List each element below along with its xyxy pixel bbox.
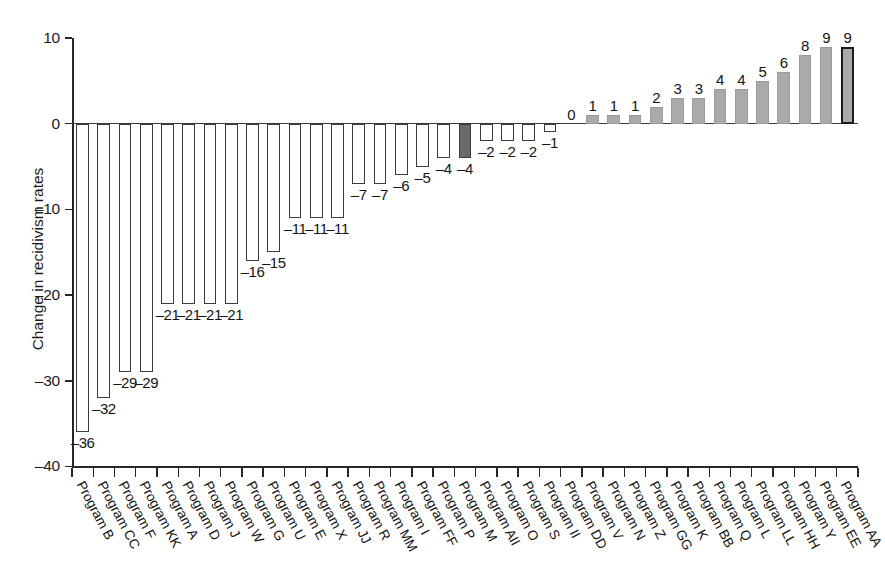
x-tick-mark [794, 468, 795, 477]
y-tick-label: 0 [14, 116, 60, 132]
y-tick-label: 10 [14, 30, 60, 46]
x-tick-mark [772, 468, 773, 477]
y-tick-mark [65, 209, 72, 211]
x-tick-mark [857, 468, 858, 477]
bar [522, 124, 535, 141]
x-axis-line [72, 466, 858, 468]
x-tick-mark [581, 468, 582, 477]
bar [395, 124, 408, 175]
bar [352, 124, 365, 184]
x-tick-mark [645, 468, 646, 477]
x-tick-mark [517, 468, 518, 477]
x-tick-mark [432, 468, 433, 477]
x-tick-mark [178, 468, 179, 477]
x-tick-mark [454, 468, 455, 477]
bar [586, 115, 599, 124]
bar-value-label: –4 [450, 161, 480, 176]
bar [777, 72, 790, 123]
bar [820, 47, 833, 124]
bar [437, 124, 450, 158]
x-tick-mark [156, 468, 157, 477]
y-tick-label: –20 [14, 287, 60, 303]
bar [310, 124, 323, 218]
x-tick-mark [751, 468, 752, 477]
bar [629, 115, 642, 124]
x-tick-mark [241, 468, 242, 477]
x-tick-mark [687, 468, 688, 477]
x-tick-mark [347, 468, 348, 477]
bar [501, 124, 514, 141]
x-tick-mark [730, 468, 731, 477]
x-tick-mark [602, 468, 603, 477]
bar [480, 124, 493, 141]
bar [161, 124, 174, 304]
y-axis-line [72, 38, 74, 467]
bar [650, 107, 663, 124]
x-tick-mark [624, 468, 625, 477]
x-tick-mark [199, 468, 200, 477]
y-tick-label: –30 [14, 373, 60, 389]
bar-value-label: –36 [68, 435, 98, 450]
bar [204, 124, 217, 304]
bar [735, 89, 748, 123]
x-tick-mark [411, 468, 412, 477]
bar [140, 124, 153, 372]
x-tick-mark [836, 468, 837, 477]
y-tick-mark [65, 123, 72, 125]
bar [459, 124, 472, 158]
y-tick-mark [65, 466, 72, 468]
x-tick-mark [71, 468, 72, 477]
x-tick-mark [666, 468, 667, 477]
bar [607, 115, 620, 124]
x-tick-mark [709, 468, 710, 477]
x-tick-mark [262, 468, 263, 477]
x-tick-mark [475, 468, 476, 477]
y-tick-label: –10 [14, 201, 60, 217]
bar [374, 124, 387, 184]
bar [225, 124, 238, 304]
x-tick-mark [135, 468, 136, 477]
x-tick-mark [326, 468, 327, 477]
bar [841, 47, 854, 124]
bar [76, 124, 89, 432]
bar [692, 98, 705, 124]
bar-value-label: –29 [131, 375, 161, 390]
y-tick-mark [65, 380, 72, 382]
bar [246, 124, 259, 261]
x-tick-mark [93, 468, 94, 477]
bar [97, 124, 110, 398]
x-tick-mark [539, 468, 540, 477]
bar [119, 124, 132, 372]
bar [756, 81, 769, 124]
bar [544, 124, 557, 133]
bar-value-label: –32 [89, 401, 119, 416]
bar-value-label: 6 [769, 55, 799, 70]
bar [671, 98, 684, 124]
bar-value-label: –15 [259, 255, 289, 270]
bar [416, 124, 429, 167]
x-tick-mark [496, 468, 497, 477]
y-tick-label: –40 [14, 458, 60, 474]
y-tick-mark [65, 294, 72, 296]
bar [267, 124, 280, 253]
bar-value-label: –1 [535, 135, 565, 150]
y-axis-title: Change in recidivism rates [29, 129, 47, 389]
x-tick-mark [560, 468, 561, 477]
x-tick-mark [815, 468, 816, 477]
y-tick-mark [65, 37, 72, 39]
bar [331, 124, 344, 218]
x-tick-mark [369, 468, 370, 477]
x-tick-mark [220, 468, 221, 477]
x-tick-mark [305, 468, 306, 477]
bar [182, 124, 195, 304]
x-tick-mark [390, 468, 391, 477]
x-tick-mark [114, 468, 115, 477]
bar-value-label: –11 [323, 221, 353, 236]
bar-value-label: –21 [216, 307, 246, 322]
bar-value-label: 9 [832, 30, 862, 45]
bar [799, 55, 812, 124]
bar [289, 124, 302, 218]
bar [714, 89, 727, 123]
x-tick-mark [284, 468, 285, 477]
